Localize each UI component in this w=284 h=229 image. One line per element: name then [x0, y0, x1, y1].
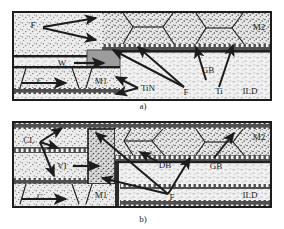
label-a-F2: F	[183, 87, 188, 97]
label-a-M1: M1	[95, 76, 108, 86]
label-b-M1: M1	[95, 190, 108, 200]
label-b-DB: DB	[159, 160, 172, 170]
panel-a-caption: a)	[140, 101, 147, 111]
panel-a: F W C M1 TiN F GB Ti ILD M2 a)	[13, 12, 271, 111]
label-b-M2: M2	[253, 132, 266, 142]
label-a-GB: GB	[202, 65, 215, 75]
panel-b-caption: b)	[139, 214, 147, 224]
panel-b-m2-barrier-line	[115, 161, 270, 163]
panel-b-m2-barrier-band	[115, 155, 270, 161]
panel-a-m1-barrier-band	[14, 88, 120, 94]
figure-root: F W C M1 TiN F GB Ti ILD M2 a)	[0, 0, 284, 229]
panel-a-m2-line	[102, 13, 270, 44]
label-a-F: F	[30, 20, 35, 30]
panel-a-m2-barrier-band	[102, 44, 270, 50]
panel-b-via-right-edge	[115, 163, 119, 207]
label-b-F: F	[169, 192, 174, 202]
label-b-VI: VI	[57, 161, 67, 171]
panel-b-lower-band-bottom	[120, 200, 270, 206]
panel-b-cap-layer-band	[14, 123, 270, 129]
label-a-TiN: TiN	[141, 83, 156, 93]
label-b-CL: CL	[23, 135, 35, 145]
label-a-Ti: Ti	[215, 86, 223, 96]
label-b-C: C	[37, 192, 43, 202]
label-b-GB: GB	[210, 161, 223, 171]
label-b-ILD: ILD	[243, 190, 258, 200]
panel-b-mid-left-band	[14, 178, 88, 184]
figure-canvas: F W C M1 TiN F GB Ti ILD M2 a)	[0, 0, 284, 229]
label-a-W: W	[58, 58, 67, 68]
label-a-C: C	[37, 76, 43, 86]
panel-a-m2-barrier-line	[102, 50, 270, 53]
panel-a-m1-top-line	[14, 66, 120, 68]
label-a-ILD: ILD	[243, 86, 258, 96]
panel-b-m2-line	[115, 129, 270, 155]
label-a-M2: M2	[253, 22, 266, 32]
panel-b-upper-left-band	[14, 147, 88, 153]
panel-a-left-divider	[13, 55, 87, 57]
